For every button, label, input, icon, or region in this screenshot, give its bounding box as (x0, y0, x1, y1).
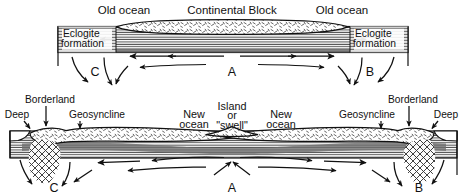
upper-eclogite-label-right: Eclogite formation (353, 28, 404, 49)
lower-label-geosyncline-left: Geosyncline (69, 109, 125, 120)
lower-cell-label-A: A (228, 181, 237, 195)
upper-cell-label-B: B (366, 65, 374, 79)
upper-cell-label-C: C (90, 65, 99, 79)
figure-canvas: Old ocean Continental Block Old ocean (0, 0, 465, 195)
lower-label-deep-right: Deep (434, 109, 459, 120)
upper-eclogite-label-left: Eclogite formation (61, 28, 112, 49)
lower-label-borderland-left: Borderland (25, 94, 75, 105)
lower-label-geosyncline-right: Geosyncline (339, 109, 395, 120)
geology-cross-section-diagram: Old ocean Continental Block Old ocean (0, 0, 465, 195)
upper-eclogite-left-line2: formation (61, 38, 104, 49)
upper-label-continental-block: Continental Block (187, 4, 277, 16)
upper-label-old-ocean-left: Old ocean (98, 4, 150, 16)
upper-eclogite-right-line2: formation (353, 38, 396, 49)
lower-label-borderland-right: Borderland (388, 94, 438, 105)
upper-label-old-ocean-right: Old ocean (316, 4, 368, 16)
lower-label-new-ocean-left-l2: ocean (179, 118, 208, 130)
upper-continental-block (116, 20, 348, 35)
lower-cell-label-C: C (49, 181, 58, 195)
lower-label-new-ocean-right-l2: ocean (266, 118, 295, 130)
upper-cell-label-A: A (228, 65, 237, 79)
lower-label-deep-left: Deep (5, 109, 30, 120)
lower-cell-label-B: B (415, 181, 423, 195)
